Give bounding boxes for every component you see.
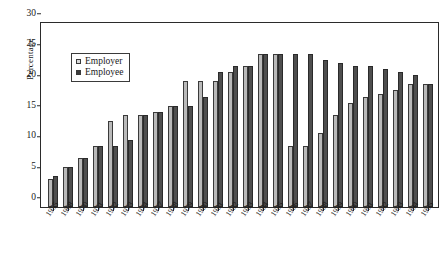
- bar-group: [165, 23, 180, 207]
- bar-chart: Percentage 051015202530 1955196819701971…: [0, 0, 447, 259]
- bar-group: [120, 23, 135, 207]
- bar-employee: [233, 66, 238, 207]
- bar-employee: [278, 54, 283, 207]
- x-tick: 1971: [90, 207, 105, 257]
- x-tick: 1984: [255, 207, 270, 257]
- bar-group: [405, 23, 420, 207]
- bar-employee: [398, 72, 403, 207]
- x-tick: 1991: [360, 207, 375, 257]
- legend-label-employee: Employee: [85, 67, 124, 78]
- bar-group: [240, 23, 255, 207]
- bar-group: [45, 23, 60, 207]
- bar-employee: [98, 146, 103, 207]
- bar-employee: [293, 54, 298, 207]
- y-tick-label: 30: [27, 9, 42, 19]
- plot-area: 051015202530: [41, 23, 438, 207]
- bar-employee: [353, 66, 358, 207]
- bar-group: [255, 23, 270, 207]
- bar-group: [360, 23, 375, 207]
- bar-group: [180, 23, 195, 207]
- bar-group: [150, 23, 165, 207]
- x-tick: 1981: [210, 207, 225, 257]
- bar-group: [300, 23, 315, 207]
- x-tick: 1977: [150, 207, 165, 257]
- bar-employee: [143, 115, 148, 207]
- x-tick: 1980: [195, 207, 210, 257]
- employee-swatch-icon: [76, 70, 81, 75]
- x-tick: 1979: [180, 207, 195, 257]
- bar-employee: [248, 66, 253, 207]
- x-tick: 1992: [375, 207, 390, 257]
- bar-group: [345, 23, 360, 207]
- x-tick: 1983: [240, 207, 255, 257]
- bar-group: [135, 23, 150, 207]
- y-tick-label: 15: [27, 101, 42, 111]
- y-tick-label: 0: [31, 193, 41, 203]
- x-tick: 1986: [285, 207, 300, 257]
- bar-employee: [203, 97, 208, 207]
- bar-group: [270, 23, 285, 207]
- bar-group: [390, 23, 405, 207]
- x-tick: 1989: [330, 207, 345, 257]
- bar-employee: [368, 66, 373, 207]
- bar-employee: [263, 54, 268, 207]
- legend-item-employer: Employer: [76, 56, 124, 67]
- employer-swatch-icon: [76, 59, 81, 64]
- y-tick-label: 20: [27, 70, 42, 80]
- bar-group: [225, 23, 240, 207]
- x-tick: 1982: [225, 207, 240, 257]
- bar-group: [315, 23, 330, 207]
- bar-employee: [173, 106, 178, 207]
- bar-employee: [413, 75, 418, 207]
- bar-employee: [113, 146, 118, 207]
- bar-employee: [428, 84, 433, 207]
- bar-employee: [308, 54, 313, 207]
- x-tick: 1995: [420, 207, 435, 257]
- x-tick: 1973: [120, 207, 135, 257]
- x-tick: 1994: [405, 207, 420, 257]
- x-tick: 1993: [390, 207, 405, 257]
- bar-group: [195, 23, 210, 207]
- x-tick: 1988: [315, 207, 330, 257]
- bar-groups: [41, 23, 438, 207]
- x-tick: 1985: [270, 207, 285, 257]
- bar-group: [420, 23, 435, 207]
- x-tick: 1978: [165, 207, 180, 257]
- x-tick: 1970: [75, 207, 90, 257]
- bar-group: [375, 23, 390, 207]
- bar-employee: [218, 72, 223, 207]
- bar-employee: [323, 60, 328, 207]
- legend: Employer Employee: [71, 53, 130, 82]
- legend-label-employer: Employer: [85, 56, 122, 67]
- bar-group: [90, 23, 105, 207]
- legend-item-employee: Employee: [76, 67, 124, 78]
- bar-employee: [338, 63, 343, 207]
- y-tick-label: 5: [31, 162, 41, 172]
- bar-employee: [383, 69, 388, 207]
- bar-employee: [188, 106, 193, 207]
- bar-group: [330, 23, 345, 207]
- bar-employee: [158, 112, 163, 207]
- x-tick: 1972: [105, 207, 120, 257]
- x-tick: 1990: [345, 207, 360, 257]
- x-tick: 1955: [45, 207, 60, 257]
- bar-group: [105, 23, 120, 207]
- x-tick: 1968: [60, 207, 75, 257]
- bar-group: [75, 23, 90, 207]
- bar-employee: [128, 140, 133, 207]
- bar-group: [210, 23, 225, 207]
- bar-group: [60, 23, 75, 207]
- x-tick: 1987: [300, 207, 315, 257]
- y-tick-label: 10: [27, 131, 42, 141]
- y-tick-label: 25: [27, 39, 42, 49]
- x-axis-ticks: 1955196819701971197219731974197719781979…: [41, 207, 438, 257]
- bar-group: [285, 23, 300, 207]
- x-tick: 1974: [135, 207, 150, 257]
